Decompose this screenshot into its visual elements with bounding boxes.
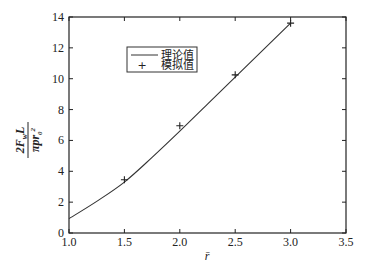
x-tick-label: 2.5 xyxy=(228,235,243,249)
x-tick-label: 3.0 xyxy=(283,235,298,249)
y-tick-label: 2 xyxy=(58,195,64,209)
y-tick-label: 6 xyxy=(58,133,64,147)
plus-marker-icon xyxy=(232,71,239,78)
y-tick-labels: 02468101214 xyxy=(52,10,64,240)
plot-frame xyxy=(69,17,346,233)
y-tick-label: 4 xyxy=(58,164,64,178)
x-axis-label: r̄ xyxy=(205,249,210,263)
plot-border xyxy=(69,17,346,233)
simulation-markers xyxy=(121,20,294,184)
y-tick-label: 14 xyxy=(52,10,64,24)
x-tick-label: 1.5 xyxy=(117,235,132,249)
y-tick-label: 8 xyxy=(58,103,64,117)
axis-ticks xyxy=(69,17,346,233)
y-label-numerator: 2FwL xyxy=(13,127,29,155)
legend-plus-icon: + xyxy=(137,59,146,72)
legend-label-simulation: 模拟值 xyxy=(161,58,194,72)
y-axis-label: 2FwL πpr02 xyxy=(13,122,44,158)
y-tick-label: 0 xyxy=(58,226,64,240)
x-tick-labels: 1.01.52.02.53.03.5 xyxy=(62,235,354,249)
y-label-denominator: πpr02 xyxy=(28,127,44,152)
legend: 理论值 + 模拟值 xyxy=(127,47,197,72)
chart: 1.01.52.02.53.03.5 02468101214 理论值 + 模拟值… xyxy=(0,0,368,274)
x-tick-label: 2.0 xyxy=(172,235,187,249)
y-tick-label: 10 xyxy=(52,72,64,86)
x-tick-label: 3.5 xyxy=(339,235,354,249)
plus-marker-icon xyxy=(121,176,128,183)
y-tick-label: 12 xyxy=(52,41,64,55)
